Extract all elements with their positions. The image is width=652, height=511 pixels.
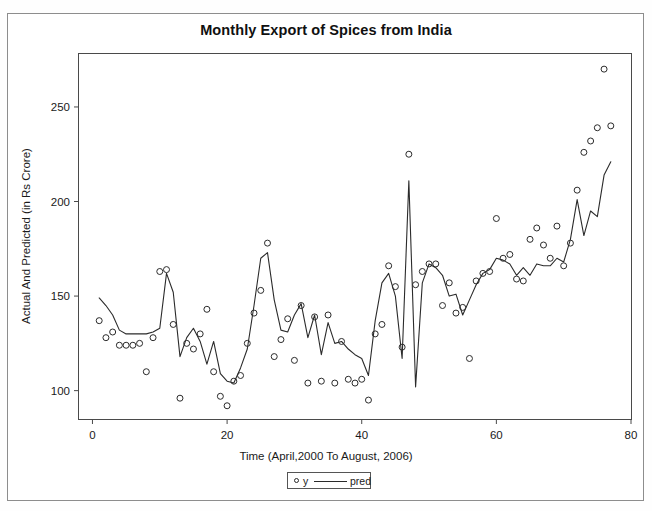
data-point-marker [278,337,284,343]
data-point-marker [137,340,143,346]
data-point-marker [554,223,560,229]
x-tick-label: 0 [89,429,95,441]
x-axis-ticks: 020406080 [89,419,637,441]
y-tick-label: 150 [51,290,70,302]
data-point-marker [103,335,109,341]
legend-item-y-label: y [303,474,308,489]
data-point-marker [594,125,600,131]
data-point-marker [211,369,217,375]
data-point-marker [190,346,196,352]
data-point-marker [143,369,149,375]
data-point-marker [433,261,439,267]
data-point-marker [238,373,244,379]
data-point-marker [96,318,102,324]
data-point-marker [440,303,446,309]
data-point-marker [197,331,203,337]
data-point-marker [540,242,546,248]
y-tick-label: 250 [51,101,70,113]
y-tick-label: 100 [51,385,70,397]
y-axis-ticks: 100150200250 [51,101,79,397]
series-y-points [96,66,614,409]
x-tick-label: 80 [625,429,638,441]
data-point-marker [507,251,513,257]
data-point-marker [406,151,412,157]
data-point-marker [130,342,136,348]
data-point-marker [527,236,533,242]
data-point-marker [493,216,499,222]
chart-canvas: 100150200250 020406080 Actual And Predic… [0,0,652,511]
data-point-marker [386,263,392,269]
data-point-marker [365,397,371,403]
data-point-marker [392,284,398,290]
data-point-marker [332,380,338,386]
y-tick-label: 200 [51,196,70,208]
data-point-marker [264,240,270,246]
legend-circle-icon [294,478,299,483]
data-point-marker [318,378,324,384]
data-point-marker [150,335,156,341]
x-tick-label: 40 [355,429,368,441]
data-point-marker [547,255,553,261]
data-point-marker [271,354,277,360]
data-point-marker [170,321,176,327]
data-point-marker [291,357,297,363]
data-point-marker [520,278,526,284]
data-point-marker [305,380,311,386]
chart-figure: 100150200250 020406080 Actual And Predic… [0,0,652,511]
data-point-marker [285,316,291,322]
data-point-marker [453,310,459,316]
data-point-marker [574,187,580,193]
data-point-marker [588,138,594,144]
data-point-marker [325,312,331,318]
data-point-marker [157,268,163,274]
data-point-marker [534,225,540,231]
data-point-marker [258,287,264,293]
data-point-marker [379,321,385,327]
data-point-marker [204,306,210,312]
data-point-marker [561,263,567,269]
data-point-marker [359,376,365,382]
data-point-marker [123,342,129,348]
data-point-marker [164,267,170,273]
data-point-marker [446,280,452,286]
data-point-marker [608,123,614,129]
series-pred-line [99,162,611,387]
data-point-marker [413,282,419,288]
data-point-marker [251,310,257,316]
x-axis-label: Time (April,2000 To August, 2006) [0,450,652,462]
pred-series-line [99,162,611,387]
plot-area-border [79,54,632,420]
legend-item-pred-label: pred [350,474,371,489]
data-point-marker [601,66,607,72]
x-tick-label: 60 [490,429,503,441]
data-point-marker [466,355,472,361]
chart-legend: y pred [287,472,371,489]
data-point-marker [224,403,230,409]
data-point-marker [177,395,183,401]
data-point-marker [217,393,223,399]
data-point-marker [581,149,587,155]
data-point-marker [116,342,122,348]
y-axis-label: Actual And Predicted (in Rs Crore) [20,148,32,324]
data-point-marker [352,380,358,386]
screenshot-page: Monthly Export of Spices from India 1001… [0,0,652,511]
data-point-marker [419,268,425,274]
data-point-marker [514,276,520,282]
legend-line-icon [314,481,347,482]
x-tick-label: 20 [221,429,234,441]
data-point-marker [110,329,116,335]
data-point-marker [345,376,351,382]
